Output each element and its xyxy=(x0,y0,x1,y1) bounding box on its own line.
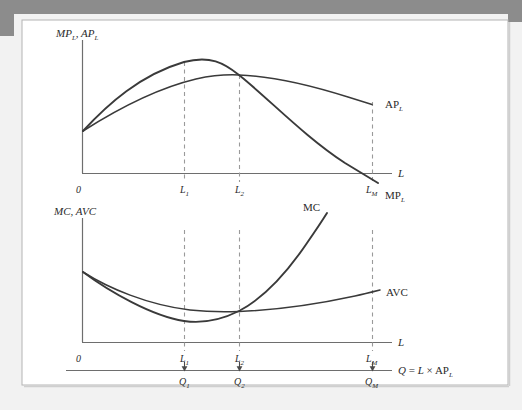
top-y-label-mp: MP xyxy=(55,27,72,39)
top-y-label-ap: AP xyxy=(80,27,95,39)
curve-label-mc: MC xyxy=(303,201,320,213)
right-gray-strip xyxy=(508,0,522,22)
figure-root: MPL, APL 0 L1 L2 LM L APL MPL xyxy=(0,0,522,410)
top-origin-label: 0 xyxy=(76,184,81,195)
left-gray-strip xyxy=(0,0,14,36)
bottom-y-axis-label: MC, AVC xyxy=(53,205,97,217)
figure-panel xyxy=(22,20,508,385)
bottom-origin-label: 0 xyxy=(76,353,81,364)
bottom-x-axis-label: L xyxy=(397,336,404,348)
top-x-axis-label: L xyxy=(397,167,404,179)
economics-diagram: MPL, APL 0 L1 L2 LM L APL MPL xyxy=(0,0,522,410)
top-gray-band xyxy=(0,0,522,14)
top-y-label-ap-sub: L xyxy=(94,34,99,42)
curve-label-avc: AVC xyxy=(386,286,408,298)
